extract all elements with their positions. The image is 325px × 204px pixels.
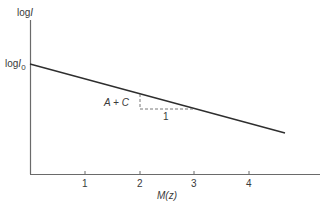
x-tick-label-3: 3 xyxy=(191,178,197,189)
slope-rise-label: A + C xyxy=(104,97,129,108)
y-intercept-label: logI0 xyxy=(5,58,26,72)
chart-canvas xyxy=(0,0,325,204)
y-axis-label: logI xyxy=(17,7,33,18)
y-axis-label-var: I xyxy=(30,7,33,18)
x-tick-label-1: 1 xyxy=(82,178,88,189)
x-axis-label: M(z) xyxy=(157,190,177,201)
y-intercept-text: log xyxy=(5,58,18,69)
x-tick-label-4: 4 xyxy=(246,178,252,189)
x-axis-label-arg: (z) xyxy=(165,190,177,201)
y-axis-label-text: log xyxy=(17,7,30,18)
slope-run-label: 1 xyxy=(163,111,169,122)
x-tick-label-2: 2 xyxy=(137,178,143,189)
y-intercept-sub: 0 xyxy=(21,63,25,72)
data-line xyxy=(30,64,285,133)
